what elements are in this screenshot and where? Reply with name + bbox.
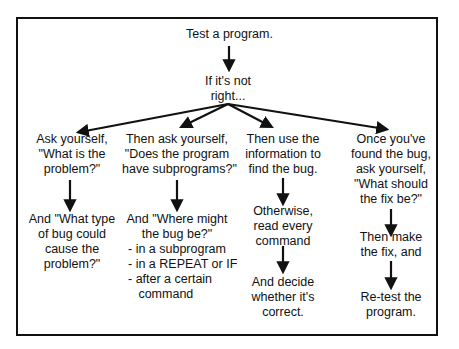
branch-4-step-2: Then make the fix, and [342,230,440,260]
branch-2-step-3: - in a subprogram - in a REPEAT or IF - … [128,242,238,302]
branch-4-step-1: Once you've found the bug, ask yourself,… [342,132,440,207]
branch-2-step-2: And "Where might the bug be?" [122,212,232,242]
branch-3-step-2: Otherwise, read every command [238,204,328,249]
branch-1-step-1: Ask yourself, "What is the problem?" [24,132,120,177]
branch-4-step-3: Re-test the program. [342,290,440,320]
root-node: Test a program. [182,27,277,42]
branch-3-step-1: Then use the information to find the bug… [238,132,328,177]
branch-3-step-3: And decide whether it's correct. [238,275,328,320]
branch-1-step-2: And "What type of bug could cause the pr… [24,212,120,272]
branch-2-step-1: Then ask yourself, "Does the program hav… [122,132,232,177]
decision-node: If it's not right... [188,74,268,104]
arrow-to-branch-1 [80,104,228,132]
